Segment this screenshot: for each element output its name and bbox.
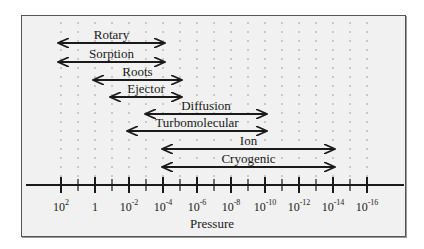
pump-range-rotary: Rotary: [58, 27, 165, 43]
tick-label: 10-16: [356, 198, 379, 214]
pump-range-ejector: Ejector: [110, 81, 182, 97]
pump-range-diagram: RotarySorptionRootsEjectorDiffusionTurbo…: [0, 0, 424, 249]
tick-label: 1: [92, 200, 98, 214]
tick-label: 10-12: [288, 198, 311, 214]
pump-label: Ion: [240, 133, 258, 148]
pump-label: Ejector: [127, 81, 165, 96]
pump-range-roots: Roots: [93, 64, 182, 80]
pump-range-cryogenic: Cryogenic: [162, 151, 335, 167]
tick-label: 10-6: [188, 198, 207, 214]
tick-label: 10-2: [120, 198, 139, 214]
pump-label: Rotary: [94, 27, 130, 42]
tick-label: 10-8: [222, 198, 241, 214]
axis-title: Pressure: [190, 216, 234, 231]
pressure-axis: [26, 177, 404, 193]
pump-range-sorption: Sorption: [58, 46, 165, 62]
tick-label: 102: [53, 198, 69, 214]
tick-label: 10-4: [154, 198, 173, 214]
pump-range-turbomolecular: Turbomolecular: [127, 115, 267, 131]
pump-label: Diffusion: [181, 98, 231, 113]
pump-ranges: RotarySorptionRootsEjectorDiffusionTurbo…: [58, 27, 335, 167]
tick-label: 10-14: [322, 198, 345, 214]
pump-label: Sorption: [89, 46, 134, 61]
pump-range-ion: Ion: [162, 133, 335, 149]
pump-label: Cryogenic: [221, 151, 275, 166]
tick-label: 10-10: [254, 198, 277, 214]
tick-labels: 102110-210-410-610-810-1010-1210-1410-16: [53, 198, 378, 214]
pump-label: Roots: [122, 64, 152, 79]
pump-label: Turbomolecular: [155, 115, 239, 130]
pump-range-diffusion: Diffusion: [145, 98, 267, 114]
